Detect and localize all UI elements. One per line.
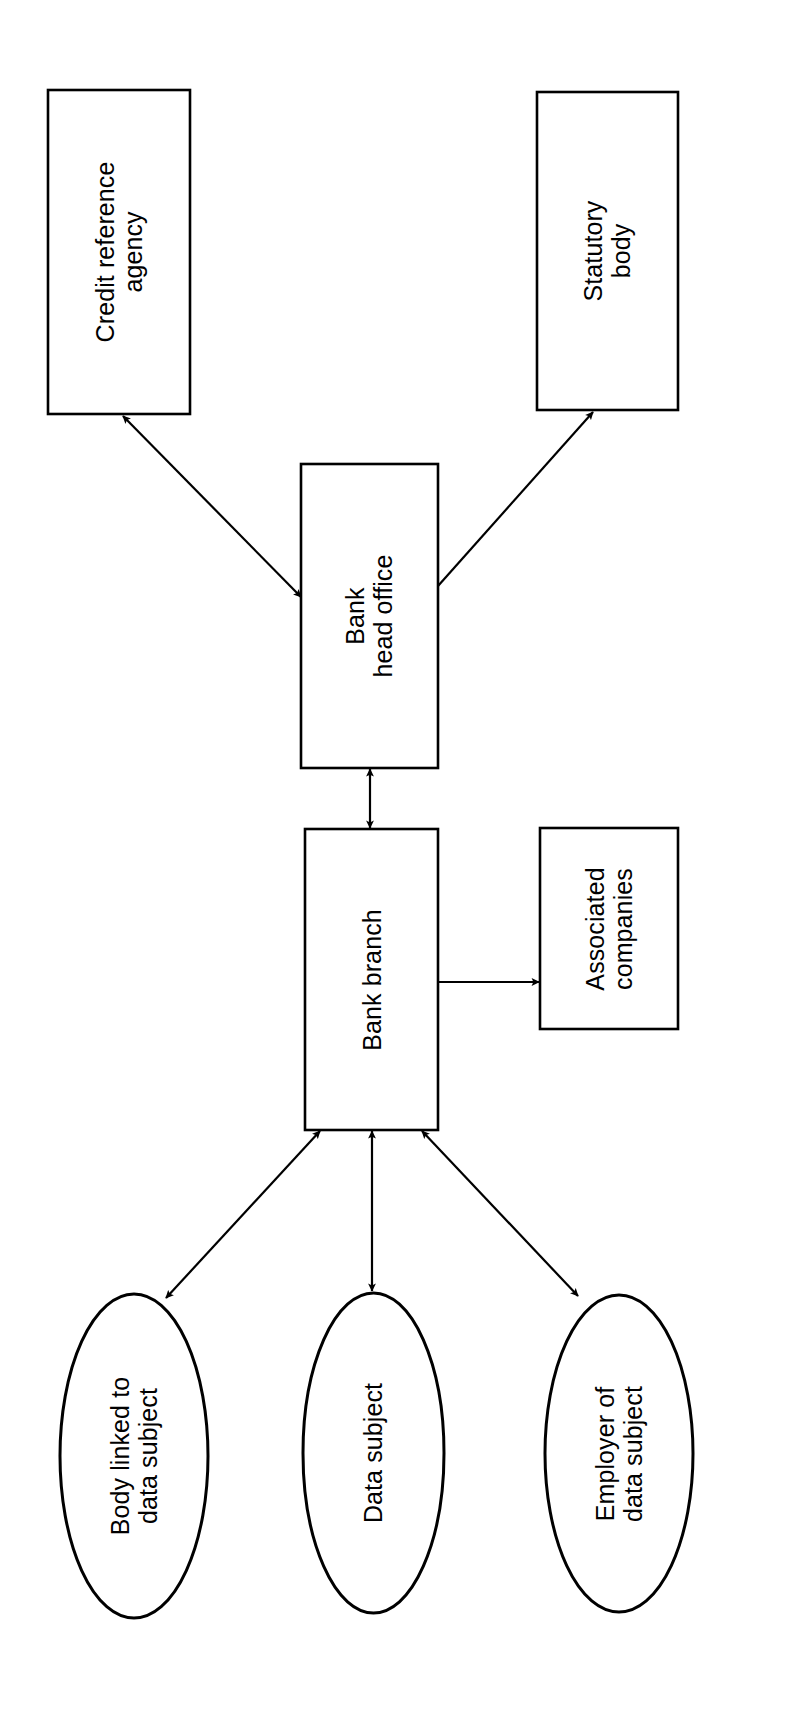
edge-head-office-statutory-body <box>438 412 593 586</box>
node-shape-associated-companies[interactable] <box>540 828 678 1029</box>
diagram-canvas: Credit reference agencyStatutory bodyBan… <box>0 0 791 1718</box>
edge-bank-branch-employer <box>422 1131 578 1296</box>
edge-head-office-credit-reference-agency <box>123 416 301 597</box>
node-shape-data-subject[interactable] <box>303 1293 444 1613</box>
node-shape-body-linked-to-data-subject[interactable] <box>60 1294 208 1618</box>
node-shape-bank-branch[interactable] <box>305 829 438 1130</box>
node-shape-credit-reference-agency[interactable] <box>48 90 190 414</box>
node-shape-bank-head-office[interactable] <box>301 464 438 768</box>
node-shape-employer-of-data-subject[interactable] <box>545 1295 693 1612</box>
node-shape-statutory-body[interactable] <box>537 92 678 410</box>
edge-bank-branch-body-linked <box>166 1131 320 1298</box>
nodes-layer <box>48 90 693 1618</box>
diagram-shapes <box>0 0 791 1718</box>
